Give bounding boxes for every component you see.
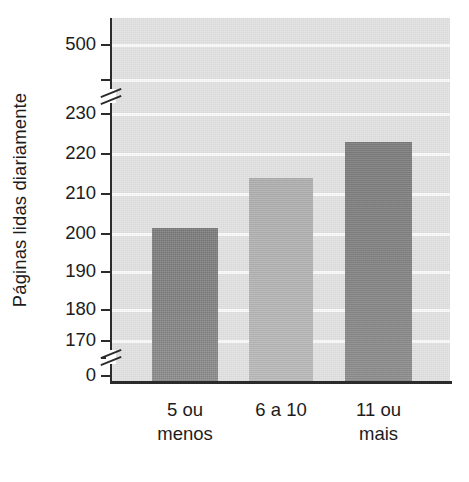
- bar-chart: Páginas lidas diariamente 50023022021020…: [0, 0, 469, 482]
- y-tick-label-170: 170: [65, 331, 96, 350]
- y-tick-mark-220: [101, 153, 111, 155]
- x-axis-tick-labels: 5 oumenos6 a 1011 oumais: [112, 398, 450, 468]
- x-tick-label-line2: mais: [323, 422, 434, 446]
- bar-texture: [152, 228, 218, 382]
- y-tick-mark-minor-0: [101, 79, 111, 81]
- y-tick-mark-170: [101, 340, 111, 342]
- x-tick-label-2: 11 oumais: [323, 398, 434, 447]
- y-axis-line: [110, 18, 112, 382]
- y-tick-label-500: 500: [65, 35, 96, 54]
- y-tick-label-180: 180: [65, 300, 96, 319]
- x-tick-label-line1: 11 ou: [356, 399, 401, 420]
- y-tick-mark-210: [101, 193, 111, 195]
- y-tick-mark-180: [101, 309, 111, 311]
- y-tick-label-200: 200: [65, 224, 96, 243]
- y-axis-tick-labels: 5002302202102001901801700: [38, 18, 100, 382]
- x-axis-line: [110, 381, 452, 384]
- gridline-1: [112, 79, 450, 82]
- bar-6-a-10[interactable]: [249, 178, 313, 382]
- x-tick-label-line1: 6 a 10: [255, 399, 306, 420]
- bar-texture: [345, 142, 412, 382]
- y-tick-label-220: 220: [65, 144, 96, 163]
- y-axis-title-text: Páginas lidas diariamente: [9, 93, 31, 307]
- x-tick-label-line1: 5 ou: [167, 399, 203, 420]
- x-tick-label-line2: menos: [130, 422, 240, 446]
- y-tick-mark-500: [101, 44, 111, 46]
- axis-break-170-0: [99, 349, 123, 367]
- y-tick-mark-200: [101, 233, 111, 235]
- y-tick-mark-0: [101, 375, 111, 377]
- y-tick-mark-190: [101, 271, 111, 273]
- y-tick-label-230: 230: [65, 104, 96, 123]
- plot-area: [112, 18, 450, 382]
- y-tick-mark-230: [101, 113, 111, 115]
- y-axis-title: Páginas lidas diariamente: [0, 0, 40, 400]
- y-tick-label-0: 0: [86, 366, 96, 385]
- gridline-2: [112, 113, 450, 116]
- y-tick-label-190: 190: [65, 262, 96, 281]
- axis-break-500-230: [99, 88, 123, 106]
- x-tick-label-0: 5 oumenos: [130, 398, 240, 447]
- bar-5-ou-menos[interactable]: [152, 228, 218, 382]
- gridline-0: [112, 44, 450, 47]
- y-tick-label-210: 210: [65, 184, 96, 203]
- x-tick-label-1: 6 a 10: [227, 398, 335, 422]
- bar-11-ou-mais[interactable]: [345, 142, 412, 382]
- bar-texture: [249, 178, 313, 382]
